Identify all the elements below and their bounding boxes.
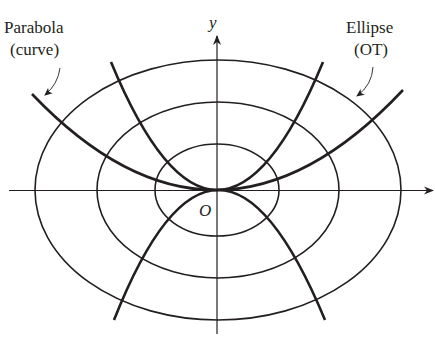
parabola-steep-down <box>114 190 325 320</box>
ellipse-annotation-arrow <box>357 67 373 96</box>
ellipse-label-line2: (OT) <box>354 40 388 59</box>
parabola-annotation-arrow <box>45 68 60 95</box>
parabola-label-line1: Parabola <box>4 18 64 37</box>
orthogonal-trajectories-diagram: Parabola (curve) Ellipse (OT) y O <box>0 0 435 344</box>
parabola-label-line2: (curve) <box>10 40 59 59</box>
origin-label: O <box>199 201 211 220</box>
y-axis-label: y <box>207 13 217 32</box>
ellipse-label-line1: Ellipse <box>346 18 393 37</box>
